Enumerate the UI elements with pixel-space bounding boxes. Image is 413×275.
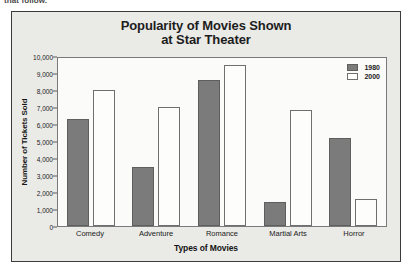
x-axis-tick-label: Romance xyxy=(189,229,255,238)
bar-group xyxy=(189,58,255,226)
y-axis-tick-label: 3,000 xyxy=(37,173,53,180)
legend-label-1980: 1980 xyxy=(364,64,380,71)
y-axis-tick-label: 7,000 xyxy=(37,105,53,112)
bars-layer xyxy=(58,58,386,226)
x-axis: ComedyAdventureRomanceMartial ArtsHorror xyxy=(57,229,387,238)
bar-comedy-1980 xyxy=(67,119,89,226)
y-axis-tick-label: 6,000 xyxy=(37,122,53,129)
bar-group xyxy=(255,58,321,226)
y-axis-tick-label: 9,000 xyxy=(37,71,53,78)
y-axis: 10,0009,0008,0007,0006,0005,0004,0003,00… xyxy=(12,57,57,227)
bar-horror-1980 xyxy=(329,138,351,226)
chart-legend: 19802000 xyxy=(347,64,380,80)
bar-martial-arts-2000 xyxy=(290,110,312,226)
legend-swatch-2000 xyxy=(347,73,358,80)
bar-romance-2000 xyxy=(224,65,246,226)
bar-group xyxy=(320,58,386,226)
x-axis-tick-label: Martial Arts xyxy=(255,229,321,238)
y-axis-tick-label: 2,000 xyxy=(37,190,53,197)
y-axis-tick-label: 5,000 xyxy=(37,139,53,146)
chart-title-line-1: Popularity of Movies Shown xyxy=(12,19,400,33)
x-axis-title: Types of Movies xyxy=(12,243,400,253)
bar-group xyxy=(124,58,190,226)
chart-title-line-2: at Star Theater xyxy=(12,33,400,47)
bar-comedy-2000 xyxy=(93,90,115,226)
bar-adventure-2000 xyxy=(158,107,180,226)
bar-martial-arts-1980 xyxy=(264,202,286,226)
legend-label-2000: 2000 xyxy=(364,73,380,80)
legend-swatch-1980 xyxy=(347,64,358,71)
legend-item-2000: 2000 xyxy=(347,73,380,80)
y-axis-tick-label: 10,000 xyxy=(33,54,53,61)
chart-title: Popularity of Movies Shown at Star Theat… xyxy=(12,19,400,46)
x-axis-tick-label: Comedy xyxy=(57,229,123,238)
y-axis-tick-label: 1,000 xyxy=(37,207,53,214)
y-axis-tick-label: 4,000 xyxy=(37,156,53,163)
bar-adventure-1980 xyxy=(132,167,154,227)
plot-area xyxy=(57,57,387,227)
x-axis-tick-label: Adventure xyxy=(123,229,189,238)
legend-item-1980: 1980 xyxy=(347,64,380,71)
y-axis-tick-label: 8,000 xyxy=(37,88,53,95)
bar-romance-1980 xyxy=(198,80,220,226)
chart-figure: Popularity of Movies Shown at Star Theat… xyxy=(11,11,401,262)
bar-horror-2000 xyxy=(355,199,377,226)
bar-group xyxy=(58,58,124,226)
x-axis-tick-label: Horror xyxy=(321,229,387,238)
page-text-fragment: that follow. xyxy=(4,0,47,5)
